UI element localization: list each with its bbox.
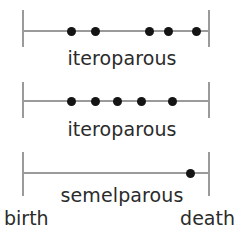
birth-label: birth <box>4 207 49 229</box>
reproduction-event-dot <box>186 169 195 178</box>
axis-endpoint-labels: birthdeath <box>0 207 244 233</box>
reproduction-event-dot <box>113 97 122 106</box>
reproduction-event-dot <box>91 97 100 106</box>
reproduction-event-dot <box>137 97 146 106</box>
reproduction-event-dot <box>145 27 154 36</box>
reproduction-event-dot <box>91 27 100 36</box>
lifespan-axis-line <box>22 30 208 32</box>
strategy-label: iteroparous <box>0 118 244 140</box>
reproduction-event-dot <box>67 97 76 106</box>
lifespan-axis-line <box>22 172 208 174</box>
strategy-label: semelparous <box>0 184 244 206</box>
strategy-label: iteroparous <box>0 47 244 69</box>
birth-tick <box>22 82 24 118</box>
reproduction-event-dot <box>164 27 173 36</box>
reproduction-event-dot <box>192 27 201 36</box>
death-tick <box>208 82 210 118</box>
death-label: death <box>180 207 235 229</box>
life-history-diagram: iteroparousiteroparoussemelparousbirthde… <box>0 0 244 235</box>
reproduction-event-dot <box>168 97 177 106</box>
reproduction-event-dot <box>67 27 76 36</box>
birth-tick <box>22 10 24 47</box>
death-tick <box>208 10 210 47</box>
